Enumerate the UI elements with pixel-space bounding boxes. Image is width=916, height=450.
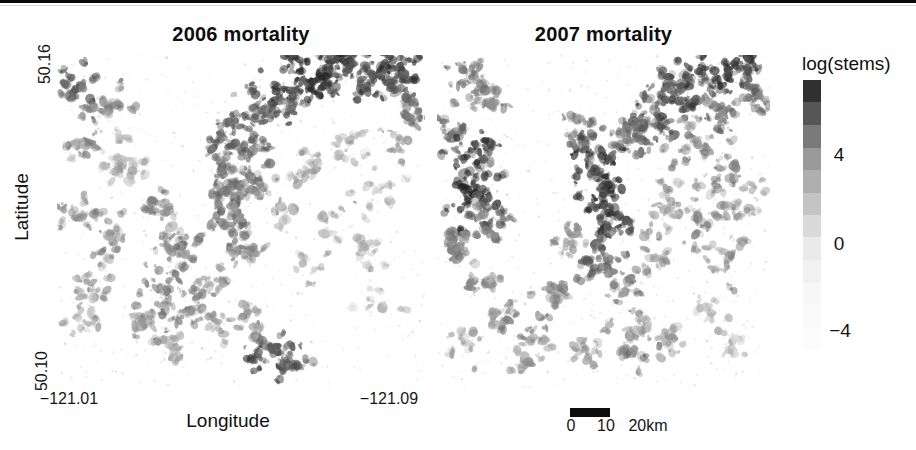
x-tick-left: −121.01 — [40, 391, 98, 407]
colorbar — [803, 80, 821, 350]
x-axis-label: Longitude — [186, 411, 269, 430]
top-rule — [0, 0, 916, 3]
map-2007-mortality — [437, 55, 770, 388]
colorbar-tick-neg4: −4 — [829, 321, 851, 340]
figure: 2006 mortality 2007 mortality Latitude 5… — [0, 0, 916, 450]
y-axis-label: Latitude — [12, 173, 31, 241]
panel-title-2006: 2006 mortality — [57, 24, 425, 44]
scalebar-label-20km: 20km — [628, 418, 667, 434]
colorbar-tick-0: 0 — [834, 234, 845, 253]
y-tick-bottom: 50.10 — [34, 351, 50, 391]
colorbar-tick-4: 4 — [834, 145, 845, 164]
scalebar-label-10: 10 — [597, 418, 615, 434]
colorbar-title: log(stems) — [802, 54, 891, 73]
scalebar — [570, 408, 610, 417]
x-tick-right: −121.09 — [360, 391, 418, 407]
y-tick-top: 50.16 — [37, 44, 53, 84]
scalebar-label-0: 0 — [567, 418, 576, 434]
map-2006-mortality — [57, 55, 425, 388]
top-rule-shadow — [0, 5, 916, 6]
panel-title-2007: 2007 mortality — [437, 24, 770, 44]
